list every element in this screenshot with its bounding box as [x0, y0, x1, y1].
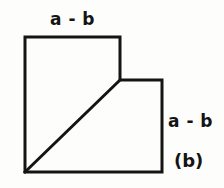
- top-edge-label: a - b: [50, 11, 95, 28]
- figure-diagonal-line: [25, 80, 120, 172]
- figure-container: a - b a - b (b): [0, 0, 224, 188]
- figure-caption: (b): [174, 152, 203, 170]
- right-edge-label: a - b: [168, 113, 213, 130]
